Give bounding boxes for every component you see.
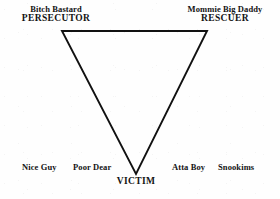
outcome-nice-guy: Nice Guy	[22, 163, 57, 172]
outcome-snookims: Snookims	[218, 163, 254, 172]
corner-victim: VICTIM	[100, 177, 172, 187]
persecutor-role: PERSECUTOR	[4, 14, 108, 24]
outcome-poor-dear: Poor Dear	[73, 163, 111, 172]
rescuer-role: RESCUER	[172, 14, 278, 24]
corner-persecutor: Bitch Bastard PERSECUTOR	[4, 5, 108, 24]
corner-rescuer: Mommie Big Daddy RESCUER	[172, 5, 278, 24]
outcome-atta-boy: Atta Boy	[172, 163, 205, 172]
triangle-outline	[62, 31, 207, 174]
victim-role: VICTIM	[100, 177, 172, 187]
drama-triangle-diagram: Bitch Bastard PERSECUTOR Mommie Big Dadd…	[0, 0, 280, 199]
